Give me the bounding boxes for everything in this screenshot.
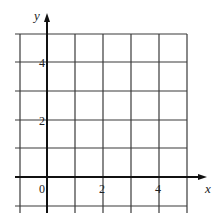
x-axis-label: x [204,181,211,196]
x-tick-label-2: 2 [99,182,105,196]
x-tick-label-4: 4 [155,182,161,196]
x-axis [15,174,207,180]
origin-label: 0 [39,182,45,196]
y-axis-label: y [32,8,40,23]
coordinate-grid-chart: y x 0 2 4 4 2 [0,0,223,224]
x-axis-arrow-icon [198,174,207,180]
y-tick-label-2: 2 [39,114,45,128]
y-axis-arrow-icon [44,13,50,22]
y-tick-label-4: 4 [39,56,45,70]
